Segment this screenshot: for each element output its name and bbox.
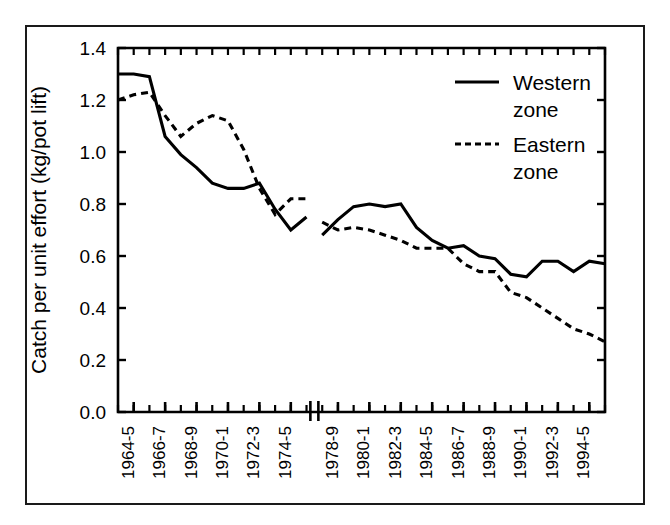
y-axis-tick-label: 0.4 — [80, 298, 107, 319]
x-axis-tick-label: 1992-3 — [543, 426, 562, 479]
x-axis-tick-label: 1964-5 — [119, 426, 138, 479]
x-axis-tick-label: 1986-7 — [449, 426, 468, 479]
x-axis-tick-label: 1982-3 — [386, 426, 405, 479]
legend-label-western: Western — [513, 71, 591, 94]
y-axis-title: Catch per unit effort (kg/pot lift) — [27, 86, 50, 374]
x-axis-tick-label: 1974-5 — [276, 426, 295, 479]
y-axis-tick-label: 0.8 — [80, 194, 106, 215]
y-axis-tick-label: 0.2 — [80, 350, 106, 371]
x-axis-tick-label: 1988-9 — [480, 426, 499, 479]
series-line-eastern-zone — [322, 222, 605, 342]
series-line-eastern-zone — [118, 92, 307, 214]
series-line-western-zone — [322, 204, 605, 277]
legend-label-eastern: Eastern — [513, 133, 585, 156]
x-axis-tick-label: 1972-3 — [244, 426, 263, 479]
cpue-line-chart: 0.00.20.40.60.81.01.21.41964-51966-71968… — [0, 0, 670, 525]
x-axis-tick-label: 1970-1 — [213, 426, 232, 479]
x-axis-tick-label: 1966-7 — [150, 426, 169, 479]
y-axis-tick-label: 1.4 — [80, 38, 107, 59]
series-line-western-zone — [118, 74, 307, 230]
legend-label-eastern-line2: zone — [513, 160, 559, 183]
y-axis-tick-label: 0.6 — [80, 246, 106, 267]
y-axis-tick-label: 1.2 — [80, 90, 106, 111]
x-axis-tick-label: 1980-1 — [354, 426, 373, 479]
x-axis-tick-label: 1990-1 — [511, 426, 530, 479]
x-axis-tick-label: 1968-9 — [182, 426, 201, 479]
x-axis-tick-label: 1994-5 — [574, 426, 593, 479]
x-axis-tick-label: 1978-9 — [323, 426, 342, 479]
y-axis-tick-label: 1.0 — [80, 142, 106, 163]
x-axis-tick-label: 1984-5 — [417, 426, 436, 479]
y-axis-tick-label: 0.0 — [80, 402, 106, 423]
legend-label-western-line2: zone — [513, 98, 559, 121]
figure-container: 0.00.20.40.60.81.01.21.41964-51966-71968… — [0, 0, 670, 525]
